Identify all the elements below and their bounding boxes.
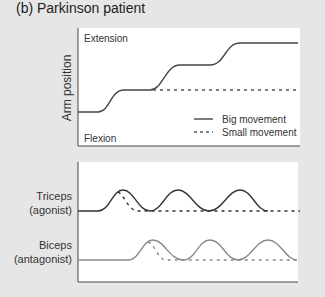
biceps-label: Biceps (39, 239, 73, 251)
extension-label: Extension (84, 33, 128, 44)
legend-big-movement: Big movement (222, 114, 286, 125)
flexion-label: Flexion (84, 133, 116, 144)
legend-small-movement: Small movement (222, 127, 297, 138)
arm-position-panel: Extension Flexion Arm position Big movem… (60, 28, 300, 146)
emg-panel: Triceps (agonist) Biceps (antagonist) (14, 162, 300, 282)
triceps-label: Triceps (36, 190, 72, 202)
agonist-label: (agonist) (29, 204, 72, 216)
antagonist-label: (antagonist) (14, 253, 72, 265)
arm-position-axis-label: Arm position (60, 55, 74, 122)
bottom-panel-background (78, 162, 298, 282)
figure-canvas: Extension Flexion Arm position Big movem… (0, 0, 325, 297)
